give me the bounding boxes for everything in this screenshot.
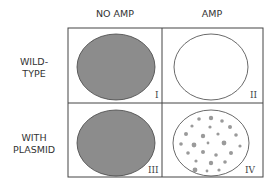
plate-iii-lawn [77, 110, 155, 176]
plate-iv-label: IV [245, 165, 256, 175]
plate-iii-label: III [148, 165, 159, 175]
plate-i-label: I [155, 90, 159, 100]
plate-i-lawn [77, 34, 155, 100]
plate-ii-empty [174, 34, 248, 100]
plate-grid: I II III IV [0, 0, 279, 192]
plate-ii-label: II [250, 90, 258, 100]
